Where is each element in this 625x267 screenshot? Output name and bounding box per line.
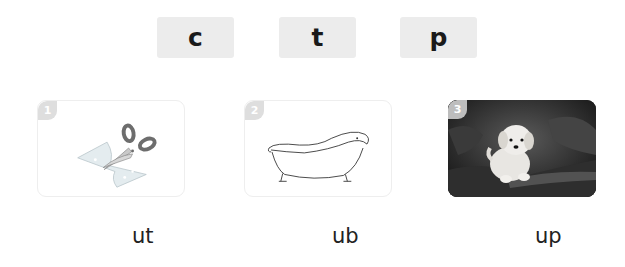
number-badge: 2 bbox=[245, 101, 264, 120]
picture-card-3: 3 bbox=[448, 100, 596, 197]
letter-option-c[interactable]: c bbox=[157, 17, 234, 58]
picture-card-1: 1 bbox=[37, 100, 185, 197]
scissors-paper-icon bbox=[38, 101, 184, 196]
word-ending-1: ut bbox=[132, 226, 154, 247]
number-badge: 3 bbox=[448, 100, 467, 119]
letter-label: t bbox=[312, 25, 324, 50]
word-ending-3: up bbox=[535, 226, 562, 247]
puppy-photo bbox=[448, 100, 596, 197]
picture-card-2: 2 bbox=[244, 100, 392, 197]
bathtub-icon bbox=[245, 101, 391, 196]
letter-option-p[interactable]: p bbox=[400, 17, 477, 58]
word-ending-2: ub bbox=[332, 226, 359, 247]
number-badge: 1 bbox=[38, 101, 57, 120]
letter-label: p bbox=[430, 25, 448, 50]
letter-option-t[interactable]: t bbox=[279, 17, 356, 58]
letter-label: c bbox=[188, 25, 203, 50]
